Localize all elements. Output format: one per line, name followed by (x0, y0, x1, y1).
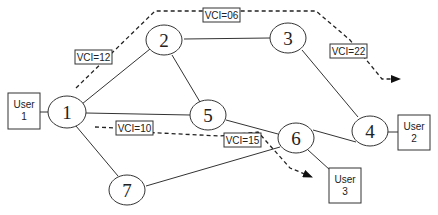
router-2[interactable]: 2 (146, 25, 182, 55)
router-7[interactable]: 7 (109, 175, 145, 205)
link-3-4 (302, 50, 358, 117)
router-5-label: 5 (203, 105, 213, 126)
user-3-box[interactable]: User 3 (329, 168, 361, 203)
link-6-user3 (308, 150, 330, 170)
router-4-label: 4 (365, 121, 375, 142)
router-5[interactable]: 5 (190, 100, 226, 130)
user-3-label: User (334, 174, 356, 185)
svg-text:VCI=22: VCI=22 (332, 46, 366, 57)
network-diagram: 1 2 3 4 5 6 7 User 1 User 2 User 3 (0, 0, 438, 215)
link-1-5 (86, 113, 190, 115)
user-2-box[interactable]: User 2 (398, 115, 430, 150)
vci-label-12: VCI=12 (75, 50, 112, 64)
router-1-label: 1 (62, 102, 72, 123)
user-3-number: 3 (342, 186, 348, 197)
router-1[interactable]: 1 (48, 96, 86, 128)
link-5-6 (226, 120, 278, 134)
router-6[interactable]: 6 (278, 123, 314, 153)
link-4-6 (313, 130, 356, 142)
svg-text:VCI=10: VCI=10 (118, 123, 152, 134)
link-2-3 (184, 38, 270, 39)
user-2-label: User (403, 121, 425, 132)
router-7-label: 7 (122, 180, 132, 201)
router-6-label: 6 (291, 128, 301, 149)
link-7-6 (146, 147, 280, 186)
user-1-label: User (13, 99, 35, 110)
vci-label-22: VCI=22 (330, 44, 367, 58)
vci-label-15: VCI=15 (224, 133, 261, 147)
user-1-box[interactable]: User 1 (8, 93, 40, 129)
router-2-label: 2 (159, 30, 169, 51)
svg-text:VCI=15: VCI=15 (226, 135, 260, 146)
link-2-5 (172, 55, 200, 102)
svg-text:VCI=06: VCI=06 (205, 10, 239, 21)
vci-label-06: VCI=06 (203, 8, 240, 22)
router-3-label: 3 (283, 28, 293, 49)
svg-text:VCI=12: VCI=12 (77, 52, 111, 63)
link-1-7 (76, 126, 118, 176)
router-3[interactable]: 3 (270, 23, 306, 53)
vci-label-10: VCI=10 (116, 121, 153, 135)
user-2-number: 2 (411, 133, 417, 144)
user-1-number: 1 (21, 111, 27, 122)
router-4[interactable]: 4 (352, 116, 388, 146)
